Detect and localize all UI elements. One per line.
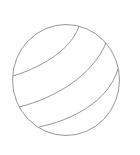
ball-illustration: [0, 0, 140, 155]
ball-icon: [0, 0, 140, 155]
ball-stripe-top: [13, 26, 79, 76]
ball-stripe-middle: [19, 43, 106, 107]
